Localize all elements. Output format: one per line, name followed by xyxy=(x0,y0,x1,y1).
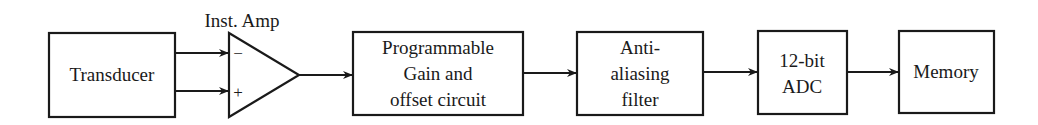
adc-label-line2: ADC xyxy=(782,76,822,97)
memory-block: Memory xyxy=(899,31,994,113)
inst-amp-label: Inst. Amp xyxy=(205,10,280,31)
pga-label-line1: Programmable xyxy=(382,37,494,58)
filter-label-line1: Anti- xyxy=(620,37,660,58)
pga-label-line3: offset circuit xyxy=(390,89,487,110)
pga-label-line2: Gain and xyxy=(403,63,473,84)
anti-aliasing-filter-block: Anti- aliasing filter xyxy=(577,32,703,115)
pga-block: Programmable Gain and offset circuit xyxy=(353,32,523,115)
signal-chain-diagram: Transducer Inst. Amp − + Programmable Ga… xyxy=(0,0,1038,125)
filter-label-line2: aliasing xyxy=(610,63,670,84)
instrumentation-amplifier: Inst. Amp − + xyxy=(205,10,299,117)
transducer-block: Transducer xyxy=(49,33,175,117)
memory-label: Memory xyxy=(913,61,979,82)
adc-block: 12-bit ADC xyxy=(758,31,847,114)
filter-label-line3: filter xyxy=(622,89,660,110)
transducer-label: Transducer xyxy=(70,64,155,85)
adc-label-line1: 12-bit xyxy=(779,50,825,71)
inverting-symbol: − xyxy=(233,44,243,63)
noninverting-symbol: + xyxy=(233,83,243,102)
